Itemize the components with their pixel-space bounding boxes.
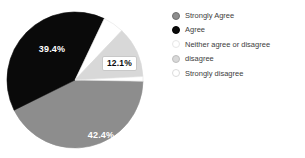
legend-item-agree: Agree [172, 25, 270, 34]
legend-label: Strongly Agree [185, 11, 234, 20]
slice-label-disagree: 12.1% [102, 56, 137, 71]
legend-label: Strongly disagree [185, 69, 243, 78]
legend: Strongly Agree Agree Neither agree or di… [172, 11, 270, 83]
legend-item-disagree: disagree [172, 54, 270, 63]
legend-marker-strongly-agree-icon [172, 12, 180, 20]
legend-item-strongly-disagree: Strongly disagree [172, 69, 270, 78]
legend-label: Agree [185, 25, 205, 34]
legend-marker-neither-icon [172, 40, 180, 48]
pie-chart [0, 0, 152, 158]
legend-label: disagree [185, 54, 214, 63]
legend-marker-disagree-icon [172, 55, 180, 63]
legend-marker-agree-icon [172, 26, 180, 34]
legend-item-neither: Neither agree or disagree [172, 40, 270, 49]
slice-label-strongly-agree: 42.4% [83, 130, 119, 140]
pie-chart-figure: 39.4% 12.1% 42.4% Strongly Agree Agree N… [0, 0, 305, 158]
legend-item-strongly-agree: Strongly Agree [172, 11, 270, 20]
legend-marker-strongly-disagree-icon [172, 69, 180, 77]
slice-label-agree: 39.4% [34, 44, 70, 54]
legend-label: Neither agree or disagree [185, 40, 270, 49]
